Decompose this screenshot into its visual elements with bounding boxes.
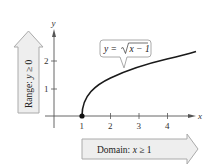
domain-label: Domain: x ≥ 1 xyxy=(97,145,152,155)
x-tick-2: 2 xyxy=(108,121,113,131)
chart-canvas: Range: y ≥ 0 Domain: x ≥ 1 y 1 2 x 1 2 3… xyxy=(0,0,209,164)
function-curve xyxy=(79,52,196,119)
x-tick-1: 1 xyxy=(80,121,85,131)
x-axis-label: x xyxy=(197,111,202,121)
x-tick-4: 4 xyxy=(165,121,170,131)
start-point xyxy=(79,113,84,118)
domain-arrow: Domain: x ≥ 1 xyxy=(82,134,198,164)
function-label-radicand: x − 1 xyxy=(129,44,150,54)
range-arrow: Range: y ≥ 0 xyxy=(14,31,43,113)
range-label: Range: y ≥ 0 xyxy=(24,60,34,108)
x-tick-3: 3 xyxy=(137,121,142,131)
function-label-prefix: y = xyxy=(103,44,117,54)
function-callout: y = x − 1 xyxy=(100,40,151,68)
y-tick-1: 1 xyxy=(44,84,49,94)
y-axis-label: y xyxy=(51,18,56,28)
y-tick-2: 2 xyxy=(44,56,49,66)
y-axis: y 1 2 xyxy=(44,18,57,128)
x-axis: x 1 2 3 4 xyxy=(45,111,202,131)
